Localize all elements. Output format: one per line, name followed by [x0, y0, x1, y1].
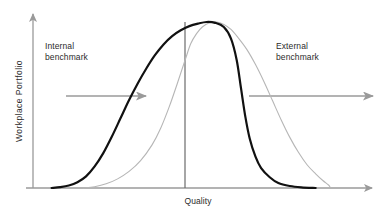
chart-figure: Workplace Portfolio Quality Internal ben…: [0, 0, 384, 216]
x-axis-title: Quality: [168, 196, 228, 207]
external-benchmark-label: External benchmark: [276, 41, 352, 62]
internal-benchmark-label: Internal benchmark: [45, 41, 115, 62]
chart-canvas: [0, 0, 384, 216]
y-axis-title: Workplace Portfolio: [14, 16, 28, 186]
